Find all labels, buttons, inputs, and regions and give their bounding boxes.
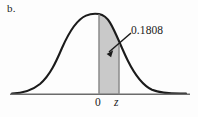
axis-tick-label-z: z [114,97,118,109]
area-value-label: 0.1808 [131,25,163,37]
part-label: b. [7,3,16,14]
axis-tick-label-zero: 0 [95,97,101,109]
normal-distribution-figure: b. 0.1808 0 z [0,0,198,117]
